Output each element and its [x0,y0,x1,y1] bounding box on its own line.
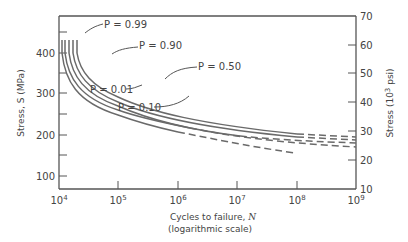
xtick-1e9: 109 [347,194,364,206]
ytick-200: 200 [36,130,55,141]
annotations: P = 0.99 P = 0.90 P = 0.50 P = 0.01 P = … [85,19,241,113]
x-axis-ticks [118,181,297,189]
rtick-30: 30 [360,126,373,137]
label-p099: P = 0.99 [104,19,147,30]
plot-frame [59,16,356,189]
xtick-1e5: 105 [109,194,126,206]
ytick-400: 400 [36,48,55,59]
rtick-40: 40 [360,97,373,108]
curve-p099-dashed [297,134,356,137]
ytick-300: 300 [36,88,55,99]
sn-fatigue-chart: 400 300 200 100 70 60 50 40 30 20 10 104… [0,0,408,242]
x-axis-labels: 104 105 106 107 108 109 [50,194,364,206]
y-axis-left-labels: 400 300 200 100 [36,48,55,182]
y-axis-left-title: Stress, S (MPa) [16,69,26,136]
leader-p090 [112,47,138,54]
label-p010: P = 0.10 [118,102,161,113]
leader-p099 [85,24,103,33]
ytick-100: 100 [36,171,55,182]
y-axis-right-title: Stress (103 psi) [384,68,395,137]
label-p001: P = 0.01 [90,84,133,95]
y-axis-right-labels: 70 60 50 40 30 20 10 [360,11,373,195]
xtick-1e4: 104 [50,194,68,206]
label-p050: P = 0.50 [198,61,241,72]
label-p090: P = 0.90 [139,40,182,51]
x-axis-subtitle: (logarithmic scale) [168,224,252,234]
curves [62,40,356,153]
rtick-70: 70 [360,11,373,22]
curve-p090-dashed [297,137,356,140]
rtick-60: 60 [360,40,373,51]
leader-p050 [165,67,197,79]
xtick-1e8: 108 [288,194,305,206]
xtick-1e6: 106 [169,194,187,206]
xtick-1e7: 107 [228,194,245,206]
x-axis-title: Cycles to failure, N [170,212,257,222]
rtick-50: 50 [360,68,373,79]
rtick-20: 20 [360,155,373,166]
